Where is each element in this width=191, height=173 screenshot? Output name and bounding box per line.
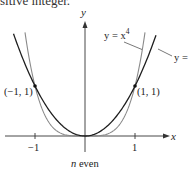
x-axis-label: x — [170, 130, 176, 142]
leader-x2 — [158, 49, 172, 56]
tick-label-neg1: −1 — [28, 142, 39, 153]
y-axis-arrow-icon — [83, 21, 88, 28]
caption: n even — [71, 158, 99, 169]
x-axis-arrow-icon — [163, 134, 170, 139]
power-function-graph: y x −1 1 (−1, 1) (1, 1) y = x4 y = n eve… — [0, 0, 191, 173]
point-label-neg1-1: (−1, 1) — [4, 86, 33, 98]
curve-label-x4: y = x4 — [104, 27, 130, 41]
curve-label-x2: y = — [174, 52, 188, 63]
tick-label-pos1: 1 — [132, 142, 137, 153]
point-neg1-1 — [33, 84, 37, 88]
leader-x4 — [124, 42, 142, 50]
point-label-1-1: (1, 1) — [137, 86, 160, 98]
y-axis-label: y — [80, 6, 86, 18]
